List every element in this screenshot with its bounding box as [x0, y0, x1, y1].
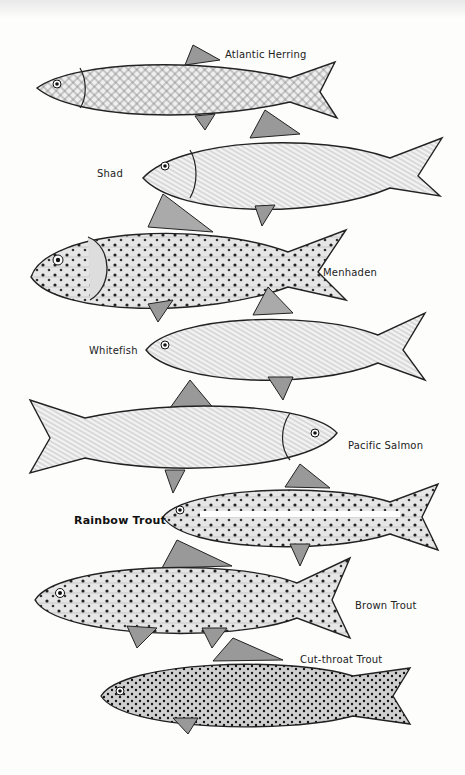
label-rainbow-trout: Rainbow Trout — [74, 514, 166, 527]
label-shad: Shad — [97, 168, 123, 179]
cut-throat-trout-illustration — [98, 636, 413, 736]
label-whitefish: Whitefish — [89, 345, 138, 356]
page-edge-shadow — [0, 0, 465, 18]
label-cut-throat-trout: Cut-throat Trout — [300, 654, 382, 665]
label-brown-trout: Brown Trout — [355, 600, 417, 611]
label-menhaden: Menhaden — [323, 267, 377, 278]
label-pacific-salmon: Pacific Salmon — [348, 440, 423, 451]
label-atlantic-herring: Atlantic Herring — [225, 49, 307, 60]
